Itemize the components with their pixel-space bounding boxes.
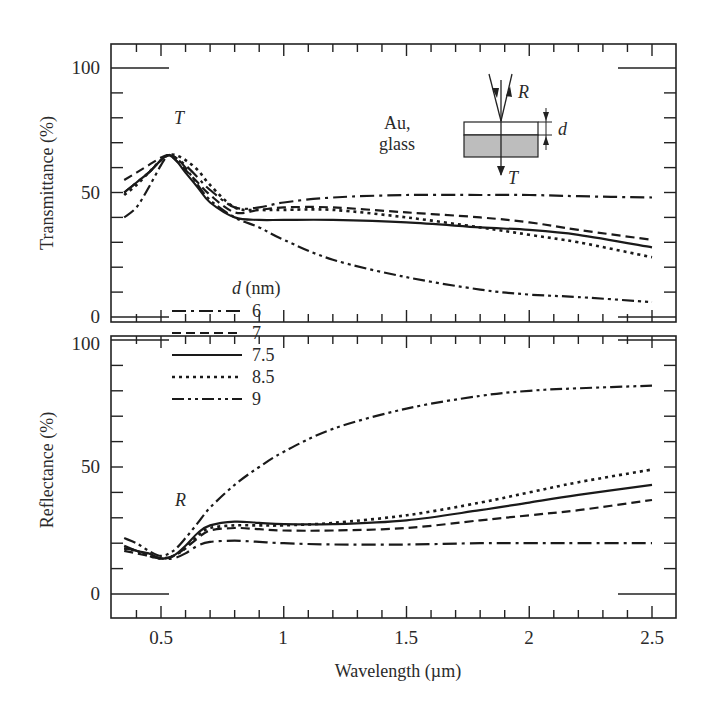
top-x-ticks	[136, 44, 652, 322]
series-line-d-6	[124, 541, 652, 559]
top-ytick-50: 50	[81, 182, 100, 203]
series-line-d-8_5	[124, 470, 652, 559]
bottom-series-lines	[124, 386, 652, 559]
transmittance-annotation: T	[174, 108, 186, 128]
reflectance-annotation: R	[174, 490, 186, 510]
sample-label-glass: glass	[379, 134, 415, 154]
top-ytick-0: 0	[91, 306, 101, 327]
legend: d (nm) 677.58.59	[172, 278, 281, 409]
top-panel-frame	[111, 44, 676, 322]
legend-label: 7	[252, 323, 261, 343]
bottom-ytick-50: 50	[81, 456, 100, 477]
top-ytick-100: 100	[72, 57, 101, 78]
series-line-d-7	[124, 155, 652, 240]
xtick-0.5: 0.5	[149, 627, 173, 648]
transmitted-arrow-icon	[497, 166, 505, 176]
figure: 100 50 0 Transmittance (%) T Au, glass R…	[0, 0, 704, 712]
bottom-y-axis-title: Reflectance (%)	[37, 412, 58, 528]
bottom-ytick-100: 100	[72, 333, 101, 354]
series-line-d-9	[124, 386, 652, 556]
series-line-d-6	[124, 155, 652, 209]
legend-item-9: 9	[172, 389, 261, 409]
legend-title-unit: (nm)	[241, 278, 281, 299]
top-y-axis-title: Transmittance (%)	[37, 116, 58, 250]
xtick-2: 2	[524, 627, 534, 648]
bottom-ytick-0: 0	[91, 583, 101, 604]
inset-r-label: R	[517, 82, 529, 102]
bottom-x-ticks	[136, 336, 652, 618]
inset-d-label: d	[558, 119, 568, 139]
incident-arrow-icon	[492, 88, 499, 98]
inset-t-label: T	[508, 168, 520, 188]
sample-label-au: Au,	[384, 113, 411, 133]
reflected-ray	[501, 74, 512, 121]
series-line-d-8_5	[124, 155, 652, 258]
x-axis-title: Wavelength (µm)	[335, 661, 461, 682]
bottom-panel: 100 50 0 Reflectance (%) R 0.5 1 1.5 2 2…	[37, 333, 676, 682]
legend-item-7_5: 7.5	[172, 345, 275, 365]
legend-label: 9	[252, 389, 261, 409]
top-series-lines	[124, 155, 652, 303]
xtick-1.5: 1.5	[394, 627, 418, 648]
series-line-d-7_5	[124, 485, 652, 559]
top-panel: 100 50 0 Transmittance (%) T Au, glass R…	[37, 44, 676, 327]
legend-label: 8.5	[252, 367, 275, 387]
top-y-ticks	[111, 68, 676, 317]
legend-item-8_5: 8.5	[172, 367, 275, 387]
series-line-d-7_5	[124, 155, 652, 247]
xtick-1: 1	[278, 627, 288, 648]
legend-label: 6	[252, 301, 261, 321]
inset-diagram: R T d	[464, 74, 568, 188]
thickness-arrow-down-icon	[543, 112, 549, 121]
legend-label: 7.5	[252, 345, 275, 365]
thickness-arrow-up-icon	[543, 136, 549, 145]
legend-title: d (nm)	[232, 278, 281, 299]
incident-ray	[489, 74, 501, 121]
xtick-2.5: 2.5	[640, 627, 664, 648]
